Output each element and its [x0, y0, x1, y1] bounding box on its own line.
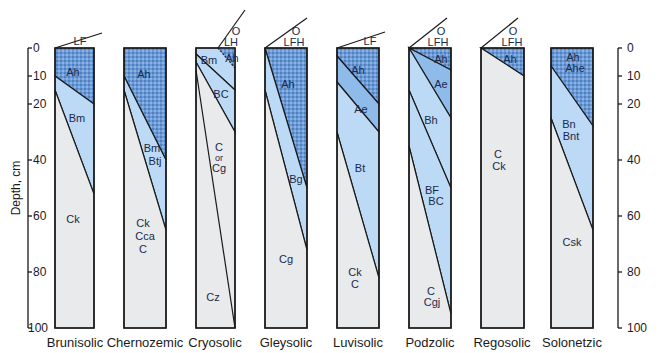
- horizon-label: Ae: [434, 78, 447, 90]
- horizon-label: Ck: [136, 217, 150, 229]
- horizon-label: Cg: [279, 253, 293, 265]
- tick-label: 100: [627, 321, 647, 335]
- horizon-label: Ah: [66, 66, 79, 78]
- tick-label: 40: [627, 153, 641, 167]
- horizon-label: Cgj: [424, 296, 441, 308]
- horizon-label: Ah: [434, 53, 447, 65]
- horizon-label: C: [139, 243, 147, 255]
- horizon-label: Bm: [144, 142, 161, 154]
- right-tick-labels: 0 10 20 40 60 80 100: [627, 41, 647, 335]
- horizon-label: Btj: [149, 155, 162, 167]
- horizon-label: C: [351, 278, 359, 290]
- horizon-label: Csk: [563, 236, 582, 248]
- horizon-label: Ah: [225, 52, 238, 64]
- horizon-label: Bm: [201, 54, 218, 66]
- horizon-label: Bn: [562, 118, 575, 130]
- horizon-label: Ae: [354, 103, 367, 115]
- profile-luvisolic: [337, 32, 385, 328]
- horizon-label: Ck: [348, 266, 362, 278]
- horizon-label: Ah: [137, 68, 150, 80]
- horizon-label: BC: [428, 195, 443, 207]
- surface-label: LH: [224, 36, 238, 48]
- horizon-label: Bh: [424, 114, 437, 126]
- tick-label: 20: [627, 97, 641, 111]
- profile-name: Gleysolic: [260, 335, 313, 350]
- left-tick-labels: 0 10 20 40 60 80 100: [28, 41, 48, 335]
- surface-label: LF: [74, 35, 87, 47]
- horizon-label: C: [215, 141, 223, 153]
- tick-label: 0: [33, 41, 40, 55]
- profile-chernozemic: [124, 48, 166, 328]
- horizon-c-ck: [481, 48, 524, 328]
- horizon-label: Ah: [351, 64, 364, 76]
- soil-profiles-figure: 0 10 20 40 60 80 100 Depth, cm 0 10 20 4…: [0, 0, 660, 353]
- horizon-label: BC: [213, 88, 228, 100]
- y-axis-label: Depth, cm: [9, 161, 23, 216]
- horizon-label: C: [494, 148, 502, 160]
- horizon-label: Ah: [503, 53, 516, 65]
- profile-name: Regosolic: [473, 335, 531, 350]
- surface-line: [337, 32, 385, 48]
- surface-label: LFH: [428, 36, 449, 48]
- profile-name: Solonetzic: [542, 335, 602, 350]
- tick-label: 60: [33, 209, 47, 223]
- horizon-label: Bnt: [563, 130, 580, 142]
- surface-label: LFH: [502, 36, 523, 48]
- tick-label: 80: [33, 265, 47, 279]
- horizon-label: Ck: [492, 160, 506, 172]
- horizon-label: Cca: [135, 230, 155, 242]
- horizon-label: Ah: [281, 78, 294, 90]
- profile-solonetzic: [551, 48, 593, 328]
- profile-name: Cryosolic: [188, 335, 242, 350]
- profile-name: Podzolic: [405, 335, 455, 350]
- horizon-label: Bm: [69, 112, 86, 124]
- profile-name-labels: Brunisolic Chernozemic Cryosolic Gleysol…: [47, 335, 603, 350]
- tick-label: 100: [28, 321, 48, 335]
- tick-label: 10: [33, 69, 47, 83]
- tick-label: 0: [627, 41, 634, 55]
- left-depth-axis: [28, 48, 32, 328]
- surface-label: LF: [364, 35, 377, 47]
- profile-name: Luvisolic: [333, 335, 383, 350]
- right-depth-axis: [618, 48, 622, 328]
- horizon-label: Bt: [355, 162, 365, 174]
- horizon-label: Bg: [289, 173, 302, 185]
- horizon-label: Cz: [206, 291, 219, 303]
- profile-name: Chernozemic: [107, 335, 184, 350]
- horizon-label: Ck: [66, 213, 80, 225]
- horizon-label: Ahe: [565, 62, 585, 74]
- horizon-label: Cg: [212, 162, 226, 174]
- tick-label: 20: [33, 97, 47, 111]
- tick-label: 10: [627, 69, 641, 83]
- profile-name: Brunisolic: [47, 335, 104, 350]
- tick-label: 60: [627, 209, 641, 223]
- tick-label: 80: [627, 265, 641, 279]
- surface-label: LFH: [284, 36, 305, 48]
- tick-label: 40: [33, 153, 47, 167]
